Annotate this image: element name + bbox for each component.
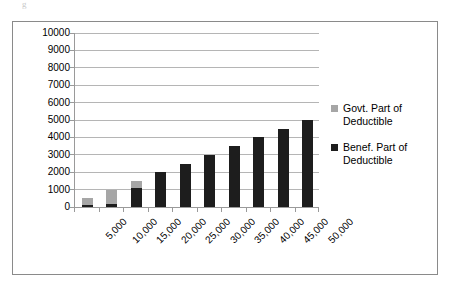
- bar-segment-benef[interactable]: [204, 155, 215, 207]
- x-axis-tick-label: 45,000: [301, 216, 330, 245]
- y-axis-tick-label: 10000: [18, 28, 70, 38]
- gridline: [75, 50, 319, 51]
- gridline: [75, 67, 319, 68]
- bar-segment-benef[interactable]: [180, 164, 191, 208]
- legend-label: Benef. Part of Deductible: [343, 141, 435, 167]
- bar-segment-benef[interactable]: [155, 172, 166, 207]
- x-axis-tick-label: 40,000: [277, 216, 306, 245]
- bar-column[interactable]: [302, 120, 313, 207]
- chart-legend: Govt. Part of DeductibleBenef. Part of D…: [331, 102, 435, 180]
- legend-entry[interactable]: Govt. Part of Deductible: [331, 102, 435, 128]
- legend-label: Govt. Part of Deductible: [343, 102, 435, 128]
- y-axis-tick-label: 3000: [18, 150, 70, 160]
- gridline: [75, 102, 319, 103]
- bar-segment-govt[interactable]: [131, 181, 142, 188]
- x-axis-tick-label: 25,000: [203, 216, 232, 245]
- y-axis-tick-label: 1000: [18, 185, 70, 195]
- gridline: [75, 120, 319, 121]
- y-axis-tick-label: 4000: [18, 132, 70, 142]
- bar-column[interactable]: [155, 172, 166, 207]
- x-axis-tick-label: 5,000: [104, 216, 129, 241]
- x-axis-tick-label: 10,000: [130, 216, 159, 245]
- bar-column[interactable]: [106, 190, 117, 207]
- bar-column[interactable]: [82, 198, 93, 207]
- y-axis-tick-label: 7000: [18, 80, 70, 90]
- legend-swatch-icon: [331, 105, 338, 112]
- bar-column[interactable]: [253, 137, 264, 207]
- chart-container: 0100020003000400050006000700080009000100…: [12, 21, 438, 275]
- plot-area: [74, 33, 319, 207]
- bar-column[interactable]: [131, 181, 142, 207]
- bar-segment-govt[interactable]: [82, 198, 93, 205]
- bar-segment-benef[interactable]: [278, 129, 289, 207]
- bar-segment-benef[interactable]: [229, 146, 240, 207]
- x-axis-tick-label: 20,000: [179, 216, 208, 245]
- bar-segment-benef[interactable]: [253, 137, 264, 207]
- bar-column[interactable]: [180, 164, 191, 208]
- legend-swatch-icon: [331, 144, 338, 151]
- y-axis-tick-label: 0: [18, 202, 70, 212]
- x-axis-tick-label: 30,000: [228, 216, 257, 245]
- x-axis-tick-label: 35,000: [252, 216, 281, 245]
- gridline: [75, 85, 319, 86]
- y-axis-tick-label: 5000: [18, 115, 70, 125]
- bar-segment-govt[interactable]: [106, 190, 117, 204]
- gridline: [75, 33, 319, 34]
- legend-entry[interactable]: Benef. Part of Deductible: [331, 141, 435, 167]
- bar-segment-benef[interactable]: [131, 188, 142, 207]
- x-axis-tick-label: 15,000: [154, 216, 183, 245]
- x-axis: 5,00010,00015,00020,00025,00030,00035,00…: [74, 212, 319, 267]
- bar-column[interactable]: [204, 155, 215, 207]
- bar-segment-benef[interactable]: [302, 120, 313, 207]
- x-axis-tick-label: 50,000: [326, 216, 355, 245]
- bar-column[interactable]: [229, 146, 240, 207]
- bar-column[interactable]: [278, 129, 289, 207]
- page-edge-artifact: g: [22, 0, 36, 9]
- y-axis-tick-label: 9000: [18, 45, 70, 55]
- y-axis: 0100020003000400050006000700080009000100…: [13, 33, 70, 207]
- y-axis-tick-label: 2000: [18, 167, 70, 177]
- y-axis-tick-label: 8000: [18, 63, 70, 73]
- y-axis-tick-label: 6000: [18, 98, 70, 108]
